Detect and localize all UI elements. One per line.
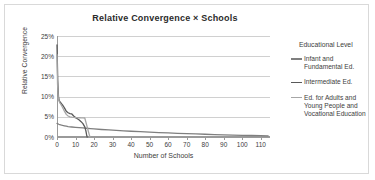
y-axis-tick-label: 5% [32,113,54,120]
y-axis-tick-label: 20% [32,53,54,60]
x-axis-tick-mark [224,137,225,140]
x-axis-tick-mark [242,137,243,140]
x-axis-tick-label: 0 [47,141,67,148]
x-axis-tick-labels: 0102030405060708090100110 [57,137,270,151]
legend: Educational Level Infant and Fundamental… [291,41,371,125]
x-axis-tick-label: 110 [251,141,271,148]
x-axis-tick-label: 70 [177,141,197,148]
x-axis-tick-label: 20 [84,141,104,148]
x-axis-tick-label: 30 [103,141,123,148]
legend-swatch-icon [291,58,302,60]
legend-swatch-icon [291,82,302,84]
legend-item[interactable]: Ed. for Adults and Young People and Voca… [291,94,371,119]
chart-container: Relative Convergence × Schools Relative … [4,4,369,174]
x-axis-tick-mark [150,137,151,140]
x-axis-tick-mark [261,137,262,140]
x-axis-tick-mark [113,137,114,140]
chart-title: Relative Convergence × Schools [45,13,285,23]
legend-swatch-icon [291,97,302,99]
x-axis-tick-mark [76,137,77,140]
x-axis-tick-label: 100 [232,141,252,148]
y-axis-title: Relative Convergence [21,6,28,116]
x-axis-tick-label: 10 [66,141,86,148]
y-axis-tick-label: 0% [32,134,54,141]
legend-title: Educational Level [299,41,371,48]
x-axis-tick-mark [94,137,95,140]
x-axis-tick-label: 80 [195,141,215,148]
legend-item[interactable]: Infant and Fundamental Ed. [291,55,371,71]
x-axis-tick-mark [205,137,206,140]
x-axis-tick-mark [187,137,188,140]
legend-item-label: Intermediate Ed. [304,78,352,86]
series-line [57,45,87,137]
y-axis-tick-label: 25% [32,33,54,40]
legend-item-label: Ed. for Adults and Young People and Voca… [304,94,371,119]
x-axis-tick-mark [131,137,132,140]
x-axis-tick-label: 60 [158,141,178,148]
legend-item[interactable]: Intermediate Ed. [291,78,371,86]
y-axis-tick-label: 15% [32,73,54,80]
legend-items: Infant and Fundamental Ed.Intermediate E… [291,55,371,118]
x-axis-tick-label: 40 [121,141,141,148]
plot-area [57,36,270,137]
y-axis-tick-label: 10% [32,93,54,100]
data-series-lines [57,36,270,137]
x-axis-title: Number of Schools [57,152,270,159]
x-axis-tick-mark [57,137,58,140]
y-axis-tick-labels: 25%20%15%10%5%0% [30,36,54,137]
legend-item-label: Infant and Fundamental Ed. [304,55,371,71]
x-axis-tick-mark [168,137,169,140]
x-axis-tick-label: 50 [140,141,160,148]
x-axis-tick-label: 90 [214,141,234,148]
